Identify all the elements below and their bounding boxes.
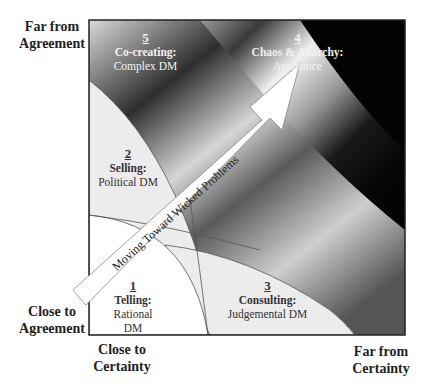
region-subtitle: Rational DM xyxy=(103,307,163,335)
region-number: 4 xyxy=(240,31,355,45)
x-axis-right-line-2: Certainty xyxy=(350,360,412,377)
x-axis-right-line-1: Far from xyxy=(350,343,412,360)
region-1-telling: 1 Telling: Rational DM xyxy=(103,279,163,335)
x-axis-left-line-1: Close to xyxy=(92,341,152,358)
x-axis-right-label: Far from Certainty xyxy=(350,343,412,377)
region-5-co-creating: 5 Co-creating: Complex DM xyxy=(108,31,183,73)
x-axis-left-label: Close to Certainty xyxy=(92,341,152,375)
y-axis-bottom-line-1: Close to xyxy=(18,303,86,320)
region-number: 2 xyxy=(98,147,158,161)
region-subtitle: Avoidance xyxy=(240,59,355,73)
region-2-selling: 2 Selling: Political DM xyxy=(98,147,158,189)
region-number: 5 xyxy=(108,31,183,45)
region-title: Selling: xyxy=(98,161,158,175)
y-axis-bottom-line-2: Agreement xyxy=(18,320,86,337)
region-subtitle: Judgemental DM xyxy=(225,307,310,321)
region-4-chaos-anarchy: 4 Chaos & Anarchy: Avoidance xyxy=(240,31,355,73)
region-subtitle: Complex DM xyxy=(108,59,183,73)
region-number: 1 xyxy=(103,279,163,293)
region-number: 3 xyxy=(225,279,310,293)
region-title: Consulting: xyxy=(225,293,310,307)
region-subtitle: Political DM xyxy=(98,175,158,189)
region-title: Co-creating: xyxy=(108,45,183,59)
y-axis-top-line-2: Agreement xyxy=(18,35,86,52)
region-3-consulting: 3 Consulting: Judgemental DM xyxy=(225,279,310,321)
x-axis-left-line-2: Certainty xyxy=(92,358,152,375)
region-title: Chaos & Anarchy: xyxy=(240,45,355,59)
y-axis-top-label: Far from Agreement xyxy=(18,18,86,52)
y-axis-bottom-label: Close to Agreement xyxy=(18,303,86,337)
region-title: Telling: xyxy=(103,293,163,307)
y-axis-top-line-1: Far from xyxy=(18,18,86,35)
